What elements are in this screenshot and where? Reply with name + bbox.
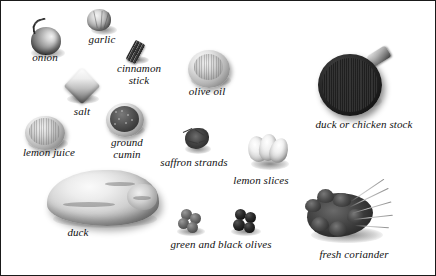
cumin-grain: [125, 122, 127, 124]
duck-fold: [133, 196, 151, 200]
ground-cumin-image: [104, 102, 150, 140]
label-garlic: garlic: [79, 34, 125, 46]
label-duck: duck: [57, 227, 99, 239]
cumin-grain: [118, 118, 120, 120]
saffron-strands-image: [179, 124, 217, 158]
cumin-grain: [121, 110, 123, 112]
duck-fold: [63, 202, 115, 207]
coriander-leaf: [317, 189, 334, 203]
cumin-grain: [114, 123, 116, 125]
coriander-leaf: [333, 193, 351, 207]
lemon-juice-ribs: [29, 118, 60, 145]
ground-cumin-powder: [110, 106, 139, 132]
label-cinnamon-stick: cinnamon stick: [108, 63, 170, 86]
label-saffron-strands: saffron strands: [152, 157, 236, 169]
fresh-coriander-image: [301, 179, 405, 249]
label-ground-cumin: ground cumin: [101, 137, 153, 160]
label-green-and-black-olives: green and black olives: [157, 239, 285, 251]
label-olive-oil: olive oil: [179, 86, 235, 98]
olive-oil-ribs: [194, 54, 223, 80]
label-onion: onion: [23, 52, 67, 64]
cumin-grain: [131, 119, 133, 121]
label-lemon-juice: lemon juice: [11, 147, 87, 159]
label-lemon-slices: lemon slices: [224, 175, 298, 187]
black-olive: [233, 219, 245, 231]
stock-pan-surface: [322, 58, 378, 112]
duck-image: [45, 168, 165, 230]
cumin-grain: [115, 111, 117, 113]
label-fresh-coriander: fresh coriander: [309, 249, 399, 261]
salt-image: [63, 70, 105, 108]
cumin-grain: [127, 114, 129, 116]
duck-fold: [105, 182, 135, 186]
black-olive: [244, 222, 255, 233]
duck-or-chicken-stock-image: [316, 48, 404, 118]
ingredients-photo-plate: onion garlic cinnamon stick salt olive o…: [0, 0, 436, 276]
lemon-slices-image: [246, 132, 294, 176]
label-duck-or-chicken-stock: duck or chicken stock: [302, 119, 426, 131]
green-and-black-olives-image: [173, 207, 269, 241]
coriander-leaf: [329, 221, 347, 236]
coriander-leaf: [311, 217, 329, 231]
green-olive: [187, 222, 198, 233]
